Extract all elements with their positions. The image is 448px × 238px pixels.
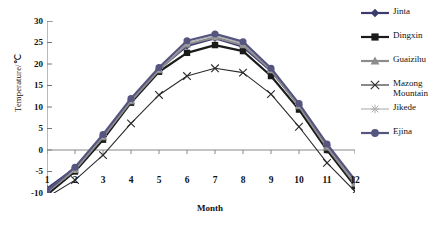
data-point-marker-square xyxy=(371,33,378,40)
data-point-marker-circle xyxy=(240,38,247,45)
x-tick-label: 12 xyxy=(344,175,366,185)
data-point-marker-square xyxy=(184,50,190,56)
y-tick-label: 0 xyxy=(13,146,43,155)
y-tick-label: 15 xyxy=(13,81,43,90)
data-point-marker-x xyxy=(267,90,275,98)
data-point-marker-x xyxy=(295,123,303,131)
data-point-marker-x xyxy=(127,120,135,128)
legend-item-label: Ejina xyxy=(390,126,412,137)
y-axis-tick-labels: -10-5051015202530 xyxy=(10,0,43,238)
chart-svg xyxy=(47,21,355,193)
data-point-marker-circle xyxy=(296,100,303,107)
series-mazong-mountain xyxy=(47,65,355,194)
x-axis-tick-labels: 123456789101112 xyxy=(47,175,367,195)
data-point-marker-x xyxy=(155,91,163,99)
data-point-marker-circle xyxy=(156,64,163,71)
x-tick-label: 7 xyxy=(204,175,226,185)
data-point-marker-circle xyxy=(324,140,331,147)
legend-item-mazong-mountain[interactable]: Mazong Mountain xyxy=(360,78,448,95)
data-point-marker-x xyxy=(323,159,331,167)
series-ejina xyxy=(47,30,355,193)
data-point-marker-circle xyxy=(100,131,107,138)
x-tick-label: 11 xyxy=(316,175,338,185)
legend-marker-icon xyxy=(360,126,390,140)
series-jinta xyxy=(47,34,355,192)
data-point-marker-circle xyxy=(371,129,379,137)
data-point-marker-circle xyxy=(212,30,219,37)
y-tick-label: 25 xyxy=(13,38,43,47)
legend-item-label: Mazong Mountain xyxy=(390,78,428,98)
y-tick-label: 5 xyxy=(13,124,43,133)
legend-item-label: Guaizihu xyxy=(390,54,426,65)
x-axis-title: Month xyxy=(150,203,270,213)
legend-marker-icon xyxy=(360,102,390,116)
legend-marker-icon xyxy=(360,30,390,44)
data-point-marker-circle xyxy=(128,95,135,102)
legend-marker-icon xyxy=(360,78,390,92)
y-tick-label: -10 xyxy=(13,189,43,198)
x-tick-label: 3 xyxy=(92,175,114,185)
series-line xyxy=(47,37,355,192)
temperature-line-chart: Temperature/℃ -10-5051015202530 12345678… xyxy=(0,0,448,238)
data-point-marker-circle xyxy=(184,37,191,44)
x-tick-label: 2 xyxy=(64,175,86,185)
chart-legend: JintaDingxinGuaizihuMazong MountainJiked… xyxy=(360,6,448,150)
y-tick-label: 10 xyxy=(13,103,43,112)
x-tick-label: 6 xyxy=(176,175,198,185)
plot-area xyxy=(47,21,355,193)
legend-item-jikede[interactable]: Jikede xyxy=(360,102,448,119)
x-tick-label: 8 xyxy=(232,175,254,185)
legend-marker-icon xyxy=(360,54,390,68)
data-point-marker-circle xyxy=(268,65,275,72)
series-line xyxy=(47,38,355,189)
data-point-marker-star xyxy=(371,105,380,114)
data-point-marker-square xyxy=(212,42,218,48)
data-point-marker-diamond xyxy=(371,9,379,17)
legend-item-label: Dingxin xyxy=(390,30,423,41)
legend-item-label: Jinta xyxy=(390,6,410,17)
data-point-marker-circle xyxy=(72,164,79,171)
series-guaizihu xyxy=(47,33,355,193)
legend-item-ejina[interactable]: Ejina xyxy=(360,126,448,143)
series-jikede xyxy=(47,32,355,193)
data-point-marker-x xyxy=(183,72,191,80)
legend-item-dingxin[interactable]: Dingxin xyxy=(360,30,448,47)
x-tick-label: 9 xyxy=(260,175,282,185)
x-tick-label: 10 xyxy=(288,175,310,185)
series-line xyxy=(47,34,355,191)
legend-item-label: Jikede xyxy=(390,102,416,113)
legend-item-guaizihu[interactable]: Guaizihu xyxy=(360,54,448,71)
legend-marker-icon xyxy=(360,6,390,20)
data-point-marker-square xyxy=(240,48,246,54)
y-tick-label: 20 xyxy=(13,60,43,69)
x-tick-label: 4 xyxy=(120,175,142,185)
x-tick-label: 5 xyxy=(148,175,170,185)
x-tick-label: 1 xyxy=(36,175,58,185)
y-tick-label: 30 xyxy=(13,17,43,26)
series-line xyxy=(47,36,355,191)
legend-item-jinta[interactable]: Jinta xyxy=(360,6,448,23)
